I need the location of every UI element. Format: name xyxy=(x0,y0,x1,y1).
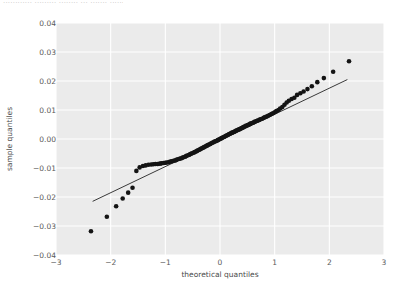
data-point xyxy=(130,185,135,190)
y-tick-label: −0.04 xyxy=(33,251,56,260)
x-tick-label: 2 xyxy=(327,258,332,267)
data-layer xyxy=(56,23,384,255)
data-point xyxy=(347,59,352,64)
data-point xyxy=(305,87,310,92)
top-cropped-text-artifact: ............ ......... ........ ... ....… xyxy=(3,0,123,6)
data-point xyxy=(134,169,139,174)
x-axis-label: theoretical quantiles xyxy=(181,270,258,279)
plot-area xyxy=(56,23,384,255)
y-tick-label: −0.01 xyxy=(33,164,56,173)
y-tick-label: 0.01 xyxy=(39,106,56,115)
x-tick-label: 3 xyxy=(382,258,387,267)
data-point xyxy=(331,69,336,74)
data-point xyxy=(120,196,125,201)
data-point xyxy=(322,76,327,81)
data-point xyxy=(114,204,119,209)
x-tick-label: −2 xyxy=(105,258,116,267)
x-tick-label: −1 xyxy=(160,258,171,267)
data-point xyxy=(301,89,306,94)
x-tick-label: 1 xyxy=(272,258,277,267)
data-point xyxy=(310,84,315,89)
data-point xyxy=(315,80,320,85)
y-axis-label: sample quantiles xyxy=(5,107,14,171)
y-tick-label: 0.04 xyxy=(39,19,56,28)
x-tick-label: 0 xyxy=(218,258,223,267)
data-point xyxy=(126,190,131,195)
data-point xyxy=(89,229,94,234)
y-tick-label: 0.03 xyxy=(39,48,56,57)
y-tick-label: 0.02 xyxy=(39,77,56,86)
data-point xyxy=(105,214,110,219)
y-tick-label: −0.02 xyxy=(33,193,56,202)
y-tick-label: −0.03 xyxy=(33,222,56,231)
y-tick-label: 0.00 xyxy=(39,135,56,144)
qq-plot-figure: ............ ......... ........ ... ....… xyxy=(0,0,399,297)
